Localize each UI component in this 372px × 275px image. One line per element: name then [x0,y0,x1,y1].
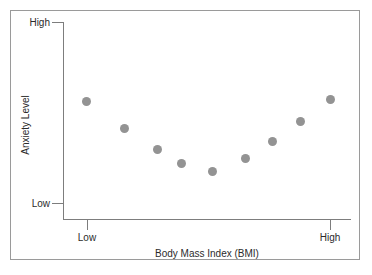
y-axis-tick-high [52,22,63,23]
x-axis-tick-high [330,220,331,230]
data-point [241,154,250,163]
data-point [153,145,162,154]
y-axis-tick-label-low: Low [32,198,50,209]
y-axis-line [63,22,64,220]
data-point [268,137,277,146]
data-point [177,159,186,168]
x-axis-tick-low [87,220,88,230]
scatter-plot-figure: High Low Low High Body Mass Index (BMI) … [0,0,372,275]
x-axis-tick-label-low: Low [57,232,117,243]
data-point [208,167,217,176]
x-axis-line [63,219,351,220]
x-axis-title: Body Mass Index (BMI) [63,248,351,259]
y-axis-tick-label-high: High [29,17,50,28]
data-point [82,97,91,106]
data-point [296,117,305,126]
y-axis-tick-low [52,203,63,204]
data-point [120,124,129,133]
data-point [326,95,335,104]
y-axis-title-text: Anxiety Level [20,95,31,154]
x-axis-tick-label-high: High [300,232,360,243]
y-axis-title: Anxiety Level [18,85,32,165]
